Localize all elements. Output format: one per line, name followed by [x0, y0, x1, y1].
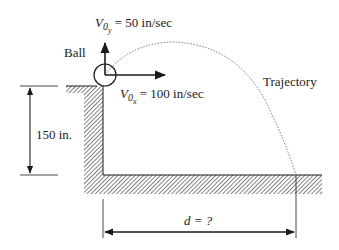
distance-label: d = ?	[184, 213, 213, 228]
height-label: 150 in.	[36, 127, 72, 142]
ball-label: Ball	[64, 45, 86, 60]
vy-label: V0y = 50 in/sec	[95, 15, 172, 35]
projectile-diagram: Ball V0y = 50 in/sec V0x = 100 in/sec Tr…	[0, 0, 339, 250]
cliff-and-ground	[66, 86, 322, 194]
trajectory-label: Trajectory	[263, 74, 317, 89]
trajectory-curve	[105, 42, 296, 175]
vx-label: V0x = 100 in/sec	[120, 86, 204, 106]
